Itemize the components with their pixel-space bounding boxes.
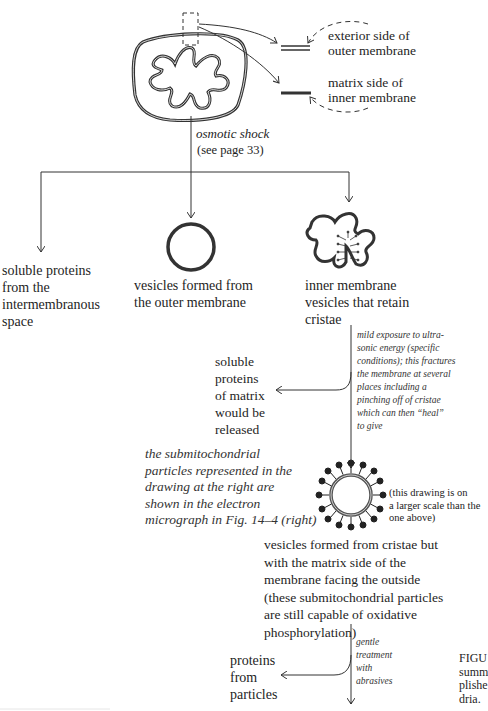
step-osmotic-shock: osmotic shock xyxy=(196,126,269,142)
label-exterior-outer-membrane: exterior side of outer membrane xyxy=(328,28,416,58)
product-soluble-intermembrane: soluble proteins from the intermembranou… xyxy=(2,262,100,330)
submitochondrial-particle-icon xyxy=(316,460,386,530)
submitochondrial-description: vesicles formed from cristae but with th… xyxy=(264,536,443,641)
inner-vesicle-icon xyxy=(307,214,374,267)
step-abrasives: gentle treatment with abrasives xyxy=(356,636,392,688)
submitochondrial-note: the submitochondrial particles represent… xyxy=(145,446,317,529)
step-ultrasonic: mild exposure to ultra- sonic energy (sp… xyxy=(357,329,455,433)
outer-membrane-symbol xyxy=(281,46,310,50)
matrix-release-arrow xyxy=(276,372,351,390)
particle-proteins: proteins from particles xyxy=(230,652,277,703)
particle-proteins-arrow xyxy=(281,655,351,675)
step-osmotic-shock-ref: (see page 33) xyxy=(197,142,264,158)
mitochondrion-icon xyxy=(133,13,246,120)
label-matrix-inner-membrane: matrix side of inner membrane xyxy=(328,75,416,105)
figure-caption-fragment: FIGU summ plishe dria. xyxy=(459,652,488,706)
product-outer-vesicles: vesicles formed from the outer membrane xyxy=(134,277,253,311)
scale-note: (this drawing is on a larger scale than … xyxy=(389,487,480,525)
matrix-proteins-released: soluble proteins of matrix would be rele… xyxy=(215,353,265,438)
outer-vesicle-icon xyxy=(168,224,214,270)
product-inner-vesicles: inner membrane vesicles that retain cris… xyxy=(305,277,409,328)
